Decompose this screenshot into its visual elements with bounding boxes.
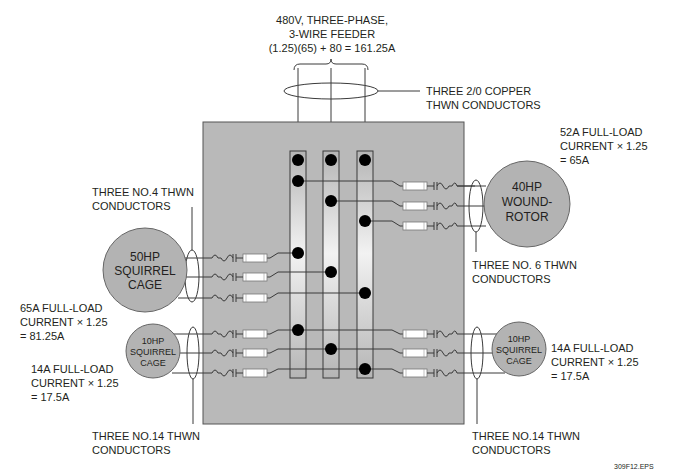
tap-dot-10hp-b: [325, 343, 337, 355]
feeder-label-line-1: 480V, THREE-PHASE,: [276, 14, 388, 26]
motor-50hp-label-line-1: 50HP: [130, 250, 160, 264]
calc-10hp-right-line-3: = 17.5A: [551, 370, 590, 382]
motor-50hp-label-line-3: CAGE: [128, 278, 162, 292]
conductors-40hp-line-2: CONDUCTORS: [472, 273, 551, 285]
motor-10hp-left-label-line-3: CAGE: [140, 358, 166, 368]
fuse-icon: [243, 273, 267, 281]
motor-40hp-label-line-2: WOUND-: [502, 195, 553, 209]
calc-40hp-line-1: 52A FULL-LOAD: [560, 126, 643, 138]
fuse-icon: [403, 202, 427, 210]
tap-dot-50hp-c: [359, 287, 371, 299]
tap-dot-50hp-b: [325, 266, 337, 278]
motor-10hp-right-label-line-3: CAGE: [506, 356, 532, 366]
feeder-label-line-3: (1.25)(65) + 80 = 161.25A: [269, 42, 396, 54]
calc-10hp-left-line-1: 14A FULL-LOAD: [31, 363, 114, 375]
motor-10hp-right-label-line-2: SQUIRREL: [496, 345, 542, 355]
fuse-icon: [403, 349, 427, 357]
motor-10hp-right-label-line-1: 10HP: [508, 334, 531, 344]
calc-10hp-left-line-2: CURRENT × 1.25: [31, 377, 119, 389]
calc-50hp-line-2: CURRENT × 1.25: [20, 316, 108, 328]
fuse-icon: [243, 294, 267, 302]
calc-40hp-line-3: = 65A: [560, 154, 590, 166]
conductors-50hp-line-2: CONDUCTORS: [92, 200, 171, 212]
feeder-tap-dot-c: [359, 154, 371, 166]
motor-40hp-label-line-3: ROTOR: [505, 210, 548, 224]
motor-50hp-label-line-2: SQUIRREL: [114, 264, 176, 278]
fuse-icon: [403, 330, 427, 338]
conductors-50hp-line-1: THREE NO.4 THWN: [92, 186, 194, 198]
motor-10hp-left-label-line-2: SQUIRREL: [130, 347, 176, 357]
tap-dot-40hp-b: [325, 195, 337, 207]
fuse-icon: [243, 369, 267, 377]
calc-10hp-right-line-2: CURRENT × 1.25: [551, 356, 639, 368]
conductors-10hp-right-line-2: CONDUCTORS: [472, 444, 551, 456]
fuse-icon: [243, 330, 267, 338]
fuse-icon: [243, 349, 267, 357]
calc-40hp-line-2: CURRENT × 1.25: [560, 140, 648, 152]
fuse-icon: [403, 369, 427, 377]
conductors-10hp-right-line-1: THREE NO.14 THWN: [472, 430, 580, 442]
feeder-label-line-2: 3-WIRE FEEDER: [289, 28, 375, 40]
tap-dot-10hp-a: [292, 324, 304, 336]
tap-dot-40hp-c: [359, 215, 371, 227]
tap-dot-10hp-c: [359, 363, 371, 375]
tap-dot-50hp-a: [292, 247, 304, 259]
bus-bar-c: [357, 151, 373, 378]
conductors-10hp-left-line-2: CONDUCTORS: [92, 444, 171, 456]
tap-dot-40hp-a: [292, 175, 304, 187]
motor-feeder-diagram: 480V, THREE-PHASE, 3-WIRE FEEDER (1.25)(…: [0, 0, 675, 476]
calc-50hp-line-3: = 81.25A: [20, 330, 65, 342]
feeder-conductor-line-2: THWN CONDUCTORS: [426, 99, 541, 111]
motor-10hp-left-label-line-1: 10HP: [142, 336, 165, 346]
fuse-icon: [243, 254, 267, 262]
calc-10hp-left-line-3: = 17.5A: [31, 391, 70, 403]
feeder-tap-dot-b: [325, 154, 337, 166]
calc-50hp-line-1: 65A FULL-LOAD: [20, 302, 103, 314]
figure-id-label: 309F12.EPS: [614, 463, 654, 470]
calc-10hp-right-line-1: 14A FULL-LOAD: [551, 342, 634, 354]
conductors-10hp-left-line-1: THREE NO.14 THWN: [92, 430, 200, 442]
motor-40hp-label-line-1: 40HP: [512, 180, 542, 194]
conductors-40hp-line-1: THREE NO. 6 THWN: [472, 259, 577, 271]
fuse-icon: [403, 222, 427, 230]
feeder-label: 480V, THREE-PHASE, 3-WIRE FEEDER (1.25)(…: [269, 14, 396, 54]
fuse-icon: [403, 182, 427, 190]
feeder-conductor-line-1: THREE 2/0 COPPER: [426, 85, 531, 97]
feeder-tap-dot-a: [292, 154, 304, 166]
